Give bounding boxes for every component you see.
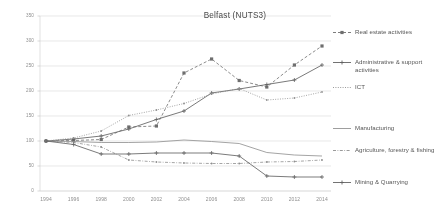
data-point <box>294 97 296 99</box>
x-tick-label: 1996 <box>62 196 86 202</box>
x-tick-label: 2006 <box>200 196 224 202</box>
legend-item-label: Mining & Quarrying <box>354 178 408 186</box>
data-point <box>156 109 158 111</box>
data-point <box>266 99 268 101</box>
legend-swatch-icon <box>332 178 354 187</box>
x-tick-label: 1998 <box>89 196 113 202</box>
data-point <box>293 63 296 66</box>
x-tick-label: 2014 <box>310 196 334 202</box>
data-point <box>100 146 102 148</box>
legend-item-label: ICT <box>354 83 365 91</box>
data-point <box>294 161 296 163</box>
data-point <box>211 163 213 165</box>
data-point <box>128 115 130 117</box>
series-line <box>46 141 322 177</box>
x-tick-label: 2002 <box>144 196 168 202</box>
y-tick-label: 250 <box>16 63 34 68</box>
x-tick-label: 2008 <box>227 196 251 202</box>
x-tick-label: 1994 <box>34 196 58 202</box>
chart-legend: Real estate activitiesAdministrative & s… <box>332 28 437 208</box>
data-point <box>154 118 158 122</box>
data-point <box>320 175 324 179</box>
data-point <box>100 138 103 141</box>
data-point <box>182 151 186 155</box>
data-point <box>210 57 213 60</box>
data-point <box>154 151 158 155</box>
y-tick-label: 200 <box>16 88 34 93</box>
series-ict <box>45 88 323 142</box>
legend-item[interactable]: Agriculture, forestry & fishing <box>332 146 437 155</box>
data-point <box>238 79 241 82</box>
data-point <box>73 137 75 139</box>
legend-swatch-icon <box>332 58 354 67</box>
data-point <box>156 161 158 163</box>
series-line <box>46 89 322 142</box>
series-mining-quarrying <box>44 139 324 179</box>
data-point <box>292 175 296 179</box>
data-point <box>99 134 103 138</box>
data-point <box>100 130 102 132</box>
legend-swatch-icon <box>332 83 354 92</box>
legend-item-label: Real estate activities <box>354 28 412 36</box>
legend-item[interactable]: Real estate activities <box>332 28 437 37</box>
data-point <box>211 93 213 95</box>
x-tick-label: 2004 <box>172 196 196 202</box>
data-point <box>210 151 214 155</box>
chart-title: Belfast (NUTS3) <box>170 11 300 20</box>
data-point <box>321 159 323 161</box>
y-tick-label: 350 <box>16 13 34 18</box>
data-point <box>266 161 268 163</box>
series-real-estate-activities <box>44 44 323 142</box>
y-tick-label: 0 <box>16 188 34 193</box>
legend-swatch-icon <box>332 146 354 155</box>
y-tick-label: 300 <box>16 38 34 43</box>
data-point <box>182 71 185 74</box>
legend-item[interactable]: Administrative & support activities <box>332 58 437 74</box>
x-tick-label: 2010 <box>255 196 279 202</box>
x-tick-label: 2000 <box>117 196 141 202</box>
data-point <box>238 163 240 165</box>
legend-swatch-icon <box>332 124 354 133</box>
legend-item[interactable]: Manufacturing <box>332 124 437 133</box>
legend-item[interactable]: Mining & Quarrying <box>332 178 437 187</box>
data-point <box>127 152 131 156</box>
legend-item-label: Administrative & support activities <box>354 58 437 74</box>
y-tick-label: 100 <box>16 138 34 143</box>
y-tick-label: 150 <box>16 113 34 118</box>
data-point <box>320 44 323 47</box>
legend-item-label: Agriculture, forestry & fishing <box>354 146 434 154</box>
chart-figure: Belfast (NUTS3) 050100150200250300350 19… <box>0 0 437 223</box>
series-lines <box>44 44 324 179</box>
data-point <box>321 91 323 93</box>
legend-item-label: Manufacturing <box>354 124 394 132</box>
data-point <box>183 103 185 105</box>
data-point <box>320 63 324 67</box>
legend-swatch-icon <box>332 28 354 37</box>
series-line <box>46 46 322 141</box>
legend-item[interactable]: ICT <box>332 83 437 92</box>
data-point <box>292 78 296 82</box>
data-point <box>99 152 103 156</box>
data-point <box>155 124 158 127</box>
data-point <box>128 159 130 161</box>
x-tick-label: 2012 <box>282 196 306 202</box>
data-point <box>238 88 240 90</box>
data-point <box>183 162 185 164</box>
y-tick-label: 50 <box>16 163 34 168</box>
